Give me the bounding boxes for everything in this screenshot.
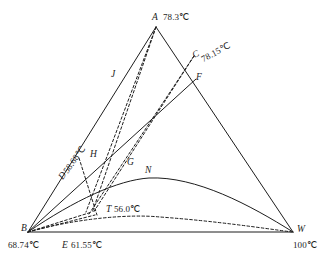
label-A-temperature: 78.3℃: [163, 13, 189, 22]
label-B-temperature: 68.74℃: [8, 241, 39, 250]
line-A-T-dashed: [92, 27, 156, 213]
label-H-point: H: [90, 150, 97, 160]
label-T-point: T: [106, 205, 111, 215]
label-T-temperature: 56.0℃: [114, 205, 140, 214]
ternary-phase-diagram: A 78.3℃ C 78.15℃ D 58.68℃ T 56.0℃ E 61.5…: [0, 0, 327, 269]
line-C-T-dashed: [93, 56, 194, 213]
label-A-point: A: [152, 13, 158, 23]
edge-A-B: [28, 27, 156, 232]
label-B-vertex: B: [21, 224, 27, 234]
line-A-T2-dashed: [86, 27, 156, 212]
label-F-point: F: [196, 73, 202, 83]
line-C-T2-dashed: [89, 56, 194, 214]
label-G-point: G: [127, 158, 134, 168]
label-E-temperature: 61.55℃: [71, 241, 102, 250]
edge-A-W: [156, 27, 293, 232]
curve-N: [28, 178, 293, 232]
label-J-point: J: [111, 70, 115, 80]
curve-T-W-dashed: [28, 216, 292, 232]
diagram-canvas: [0, 0, 327, 269]
label-W-vertex: W: [297, 225, 305, 235]
label-N-point: N: [145, 166, 151, 176]
label-W-temperature: 100℃: [293, 241, 317, 250]
label-E-point: E: [62, 241, 68, 251]
